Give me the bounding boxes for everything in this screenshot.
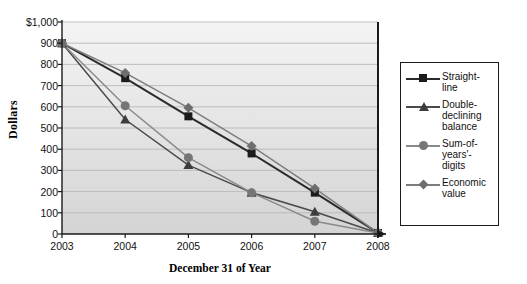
- data-point-circle: [121, 101, 130, 110]
- y-tick-label: 100: [10, 208, 58, 218]
- x-tick-label: 2004: [95, 240, 155, 252]
- y-axis-title: Dollars: [6, 85, 21, 155]
- y-tick-label: 200: [10, 187, 58, 197]
- y-tick-label: $1,000: [10, 17, 58, 27]
- chart-legend: Straight- lineDouble- declining balanceS…: [400, 62, 499, 226]
- legend-item[interactable]: Sum-of- years'- digits: [406, 138, 478, 171]
- legend-key-square-icon: [406, 72, 440, 86]
- legend-marker-triangle-icon: [419, 102, 429, 111]
- legend-label: Double- declining balance: [440, 99, 481, 132]
- y-tick-label: 900: [10, 38, 58, 48]
- legend-item[interactable]: Straight- line: [406, 71, 480, 93]
- x-tick-label: 2003: [32, 240, 92, 252]
- legend-key-diamond-icon: [406, 178, 440, 192]
- data-point-circle: [310, 217, 319, 226]
- data-point-circle: [247, 188, 256, 197]
- legend-label: Economic value: [440, 177, 486, 199]
- legend-item[interactable]: Double- declining balance: [406, 99, 481, 132]
- legend-item[interactable]: Economic value: [406, 177, 486, 199]
- x-tick-label: 2008: [348, 240, 408, 252]
- data-point-circle: [184, 153, 193, 162]
- x-tick-label: 2005: [158, 240, 218, 252]
- data-point-square: [184, 112, 192, 120]
- x-tick-label: 2007: [285, 240, 345, 252]
- x-tick-label: 2006: [222, 240, 282, 252]
- legend-marker-square-icon: [419, 74, 427, 82]
- legend-key-circle-icon: [406, 139, 440, 153]
- legend-label: Straight- line: [440, 71, 480, 93]
- y-tick-label: 300: [10, 165, 58, 175]
- y-tick-label: 800: [10, 59, 58, 69]
- legend-key-triangle-icon: [406, 100, 440, 114]
- chart-figure: $1,0009008007006005004003002001000 20032…: [0, 0, 527, 284]
- x-axis-title: December 31 of Year: [62, 262, 378, 274]
- y-tick-label: 0: [10, 229, 58, 239]
- legend-marker-diamond-icon: [419, 180, 427, 188]
- legend-label: Sum-of- years'- digits: [440, 138, 478, 171]
- legend-marker-circle-icon: [419, 141, 428, 150]
